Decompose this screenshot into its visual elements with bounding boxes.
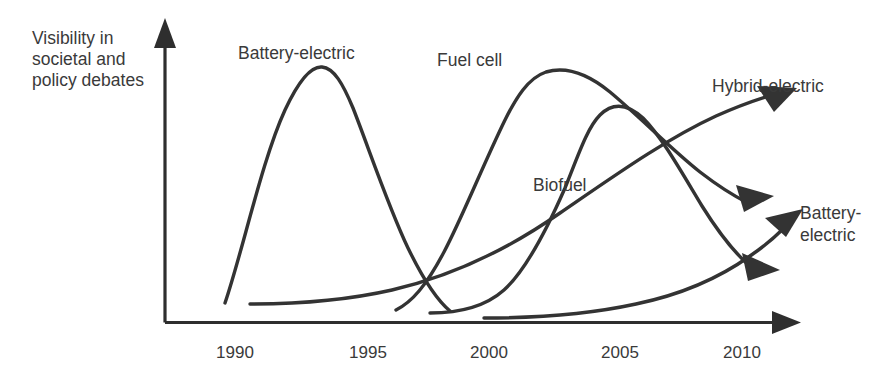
x-tick-labels: 1990 1995 2000 2005 2010 — [216, 343, 761, 362]
curve-battery-electric-first-wave — [225, 67, 450, 311]
curve-hybrid-electric — [250, 95, 772, 304]
label-battery-electric-second-line-1: Battery- — [800, 203, 861, 223]
battery-electric-second-arrowhead — [765, 209, 803, 237]
x-tick-1990: 1990 — [216, 343, 254, 362]
x-tick-2010: 2010 — [723, 343, 761, 362]
curves-group — [225, 67, 803, 318]
y-axis-title-line-2: societal and — [32, 49, 125, 69]
trend-line-chart: Visibility in societal and policy debate… — [0, 0, 896, 380]
label-battery-electric-second-line-2: electric — [800, 225, 856, 245]
x-axis-arrowhead — [772, 311, 801, 334]
x-tick-2005: 2005 — [601, 343, 639, 362]
label-biofuel: Biofuel — [533, 175, 587, 195]
label-battery-electric-first: Battery-electric — [238, 43, 355, 63]
y-axis-title: Visibility in societal and policy debate… — [32, 28, 144, 90]
y-axis-title-line-1: Visibility in — [32, 28, 113, 48]
x-tick-1995: 1995 — [349, 343, 387, 362]
x-tick-2000: 2000 — [470, 343, 508, 362]
curve-battery-electric-second-wave — [484, 229, 783, 318]
y-axis-arrowhead — [154, 18, 176, 48]
label-hybrid-electric: Hybrid-electric — [712, 76, 824, 96]
fuel-cell-arrowhead — [736, 185, 774, 212]
chart-figure: Visibility in societal and policy debate… — [0, 0, 896, 380]
y-axis-title-line-3: policy debates — [32, 70, 144, 90]
label-fuel-cell: Fuel cell — [437, 50, 502, 70]
